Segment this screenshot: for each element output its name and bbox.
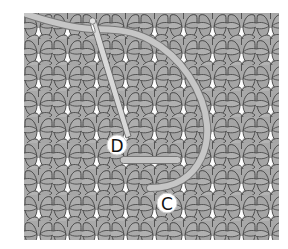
yarn-bar: [120, 157, 181, 164]
label-c-text: C: [161, 194, 173, 214]
knit-fabric-panel: [24, 13, 279, 240]
label-d-text: D: [110, 136, 123, 156]
knitting-diagram: D C: [0, 0, 288, 249]
